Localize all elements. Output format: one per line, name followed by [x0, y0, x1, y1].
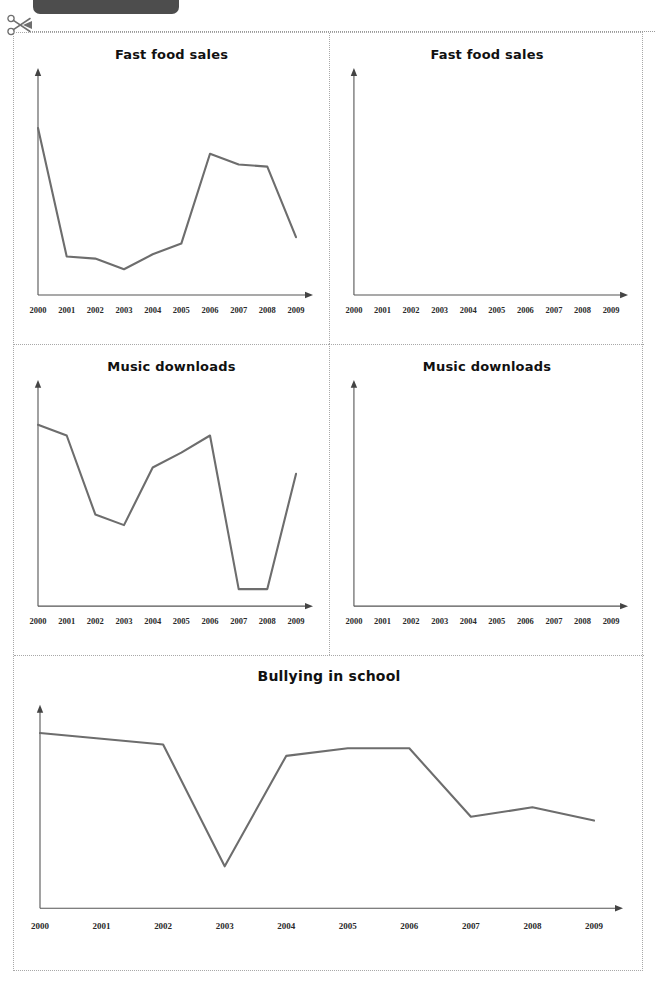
x-tick-label: 2009: [585, 921, 603, 931]
x-tick-label: 2004: [144, 616, 162, 626]
chart-canvas-fast-food-sales-filled: 2000200120022003200420052006200720082009: [14, 33, 329, 344]
x-tick-label: 2008: [574, 616, 591, 626]
x-tick-label: 2005: [173, 616, 190, 626]
x-tick-label: 2005: [488, 305, 505, 315]
x-tick-label: 2003: [431, 616, 448, 626]
chart-panel-fast-food-sales-filled: Fast food sales 200020012002200320042005…: [14, 33, 329, 344]
header-ghost-text: [432, 0, 647, 14]
x-tick-label: 2002: [154, 921, 172, 931]
x-tick-label: 2006: [202, 305, 219, 315]
x-tick-label: 2001: [58, 616, 75, 626]
x-tick-label: 2000: [31, 921, 49, 931]
x-tick-label: 2001: [374, 616, 391, 626]
x-tick-label: 2006: [400, 921, 418, 931]
x-tick-label: 2003: [116, 616, 133, 626]
x-tick-label: 2000: [345, 305, 362, 315]
x-tick-label: 2003: [216, 921, 234, 931]
x-tick-label: 2002: [87, 616, 104, 626]
x-tick-label: 2007: [545, 305, 563, 315]
x-tick-label: 2008: [259, 616, 276, 626]
x-tick-label: 2000: [30, 616, 47, 626]
x-tick-label: 2001: [374, 305, 391, 315]
x-tick-label: 2005: [339, 921, 357, 931]
x-tick-label: 2000: [30, 305, 47, 315]
worksheet-grid: Fast food sales 200020012002200320042005…: [13, 32, 643, 971]
chart-panel-music-downloads-filled: Music downloads 200020012002200320042005…: [14, 344, 329, 655]
x-tick-label: 2004: [277, 921, 295, 931]
x-tick-label: 2004: [144, 305, 162, 315]
x-tick-label: 2004: [460, 616, 478, 626]
chart-panel-fast-food-sales-blank[interactable]: Fast food sales 200020012002200320042005…: [329, 33, 644, 344]
x-tick-label: 2008: [574, 305, 591, 315]
chart-data-line: [38, 425, 296, 589]
chart-panel-music-downloads-blank[interactable]: Music downloads 200020012002200320042005…: [329, 344, 644, 655]
x-tick-label: 2007: [230, 616, 248, 626]
chart-canvas-music-downloads-filled: 2000200120022003200420052006200720082009: [14, 345, 329, 655]
x-tick-label: 2009: [603, 305, 620, 315]
x-tick-label: 2004: [460, 305, 478, 315]
x-tick-label: 2006: [202, 616, 219, 626]
x-tick-label: 2008: [523, 921, 541, 931]
header-bar: [33, 0, 179, 14]
x-tick-label: 2007: [545, 616, 563, 626]
x-tick-label: 2007: [230, 305, 248, 315]
page-top-strip: [0, 0, 655, 30]
x-tick-label: 2001: [58, 305, 75, 315]
x-tick-label: 2006: [517, 305, 534, 315]
x-tick-label: 2005: [488, 616, 505, 626]
x-tick-label: 2008: [259, 305, 276, 315]
x-tick-label: 2001: [93, 921, 111, 931]
chart-panel-bullying-in-school-filled: Bullying in school 200020012002200320042…: [14, 655, 644, 972]
x-tick-label: 2009: [288, 305, 305, 315]
chart-data-line: [40, 733, 594, 866]
x-tick-label: 2002: [87, 305, 104, 315]
x-tick-label: 2009: [603, 616, 620, 626]
x-tick-label: 2002: [403, 305, 420, 315]
x-tick-label: 2006: [517, 616, 534, 626]
x-tick-label: 2000: [345, 616, 362, 626]
chart-canvas-music-downloads-blank[interactable]: 2000200120022003200420052006200720082009: [330, 345, 644, 655]
chart-data-line: [38, 128, 296, 269]
x-tick-label: 2003: [116, 305, 133, 315]
x-tick-label: 2002: [403, 616, 420, 626]
x-tick-label: 2007: [462, 921, 480, 931]
x-tick-label: 2003: [431, 305, 448, 315]
x-tick-label: 2005: [173, 305, 190, 315]
chart-canvas-bullying-in-school-filled: 2000200120022003200420052006200720082009: [14, 656, 644, 972]
chart-canvas-fast-food-sales-blank[interactable]: 2000200120022003200420052006200720082009: [330, 33, 644, 344]
x-tick-label: 2009: [288, 616, 305, 626]
